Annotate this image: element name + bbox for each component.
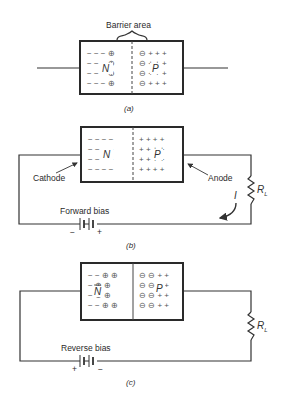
p-region-label: P bbox=[154, 149, 161, 160]
resistor-icon bbox=[248, 312, 254, 340]
bottom-circuit-wire bbox=[97, 340, 251, 361]
charge-row: ⊖ ⊖ + + bbox=[139, 271, 169, 280]
battery-positive-sign: + bbox=[97, 227, 102, 237]
anode-label: Anode bbox=[208, 173, 233, 183]
cathode-label: Cathode bbox=[33, 173, 65, 183]
battery-negative-sign: − bbox=[98, 364, 103, 374]
resistor-label: RL bbox=[257, 184, 268, 197]
caption-c: (c) bbox=[126, 378, 136, 387]
charge-row: − − − ⊕ bbox=[87, 49, 115, 58]
panel-c: RL − − ⊕ ⊕ − ⊕ ⊕ − ⊕ ⊕ − − ⊕ ⊕ ⊖ ⊖ + + ⊖… bbox=[20, 263, 268, 387]
cathode-arrow-icon bbox=[56, 163, 77, 173]
current-label: I bbox=[234, 190, 237, 201]
panel-a: Barrier area − − − ⊕ − − − ⊕ − − − ⊕ − −… bbox=[37, 20, 228, 113]
barrier-brace bbox=[117, 31, 147, 40]
pn-junction-diagram: Barrier area − − − ⊕ − − − ⊕ − − − ⊕ − −… bbox=[0, 0, 284, 396]
resistor-label: RL bbox=[257, 320, 268, 333]
barrier-area-label: Barrier area bbox=[106, 20, 151, 30]
p-region-label: P bbox=[152, 63, 159, 74]
resistor-icon bbox=[248, 176, 254, 204]
charge-row: ⊖ + + + bbox=[139, 79, 167, 88]
charge-row: − − − − bbox=[88, 135, 114, 144]
battery-positive-sign: + bbox=[72, 364, 77, 374]
n-region-label: N bbox=[94, 286, 102, 297]
battery-negative-sign: − bbox=[70, 227, 75, 237]
charge-row: − − − ⊕ bbox=[87, 79, 115, 88]
n-region-label: N bbox=[102, 63, 110, 74]
anode-arrow-icon bbox=[188, 164, 208, 175]
reverse-bias-label: Reverse bias bbox=[61, 343, 111, 353]
current-arrow-icon bbox=[220, 203, 236, 218]
charge-row: ⊖ + + + bbox=[139, 49, 167, 58]
charge-row: − − − − bbox=[88, 165, 114, 174]
caption-b: (b) bbox=[126, 241, 136, 250]
charge-row: − − ⊕ ⊕ bbox=[88, 271, 118, 280]
forward-bias-label: Forward bias bbox=[60, 206, 109, 216]
panel-b: RL − − − − − − − − − − − − − − − − + + +… bbox=[19, 127, 268, 250]
charge-row: + + + + bbox=[139, 135, 165, 144]
n-region-label: N bbox=[103, 149, 111, 160]
p-region-label: P bbox=[156, 283, 163, 294]
charge-row: − − ⊕ ⊕ bbox=[88, 301, 118, 310]
right-circuit-wire bbox=[183, 291, 251, 312]
caption-a: (a) bbox=[124, 104, 134, 113]
charge-row: ⊖ ⊖ + + bbox=[139, 301, 169, 310]
bottom-circuit-wire bbox=[97, 204, 251, 224]
charge-row: + + + + bbox=[139, 165, 165, 174]
battery-icon bbox=[80, 355, 93, 367]
battery-icon bbox=[80, 218, 93, 230]
